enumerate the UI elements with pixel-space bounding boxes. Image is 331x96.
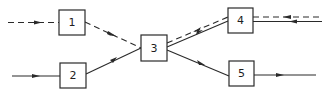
arrow-icon (34, 21, 42, 25)
arrow-icon (107, 31, 116, 36)
node-2: 2 (60, 63, 86, 88)
flow-diagram: 1 2 3 4 5 (0, 0, 331, 96)
node-5: 5 (229, 61, 254, 86)
edge-3-to-4 (167, 21, 228, 47)
node-1-label: 1 (69, 16, 76, 29)
edge-3-to-5 (167, 50, 229, 76)
node-1: 1 (59, 10, 85, 35)
node-5-label: 5 (238, 67, 245, 80)
arrow-icon (276, 73, 284, 77)
node-3: 3 (141, 35, 167, 61)
arrow-icon (197, 60, 205, 65)
arrow-icon (32, 74, 40, 78)
arrow-icon (289, 20, 297, 24)
node-3-label: 3 (151, 42, 158, 55)
node-4: 4 (228, 8, 253, 33)
arrow-icon (283, 15, 291, 19)
node-4-label: 4 (237, 14, 244, 27)
node-2-label: 2 (70, 69, 77, 82)
